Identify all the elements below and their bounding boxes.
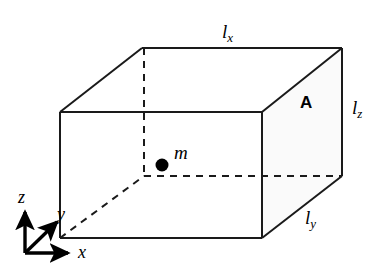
axis-z-label: z	[18, 188, 25, 206]
length-y-subscript: y	[310, 216, 316, 231]
hidden-edge-bottom-left-diagonal	[60, 176, 144, 238]
axis-y-arrow	[25, 222, 57, 253]
mass-label: m	[174, 143, 188, 162]
area-face-label: A	[300, 94, 312, 111]
length-y-label: ly	[305, 208, 316, 227]
length-z-label: lz	[352, 98, 362, 117]
axis-y-label: y	[57, 205, 65, 223]
length-z-subscript: z	[357, 106, 362, 121]
mass-point-marker	[156, 159, 169, 172]
box-diagram-svg	[0, 0, 385, 268]
length-x-label: lx	[222, 22, 233, 41]
box-diagram-figure: lx lz ly A m z x y	[0, 0, 385, 268]
axis-x-label: x	[78, 243, 86, 261]
length-x-subscript: x	[227, 30, 233, 45]
